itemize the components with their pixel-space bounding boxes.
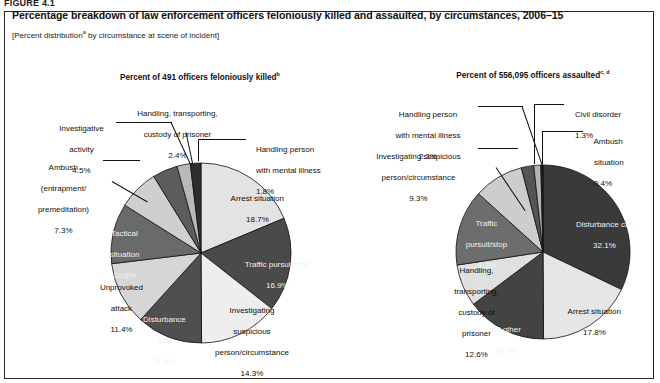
left-label-investigative-activity-l1: Investigative: [59, 124, 103, 133]
right-label-civil-disorder-name: Civil disorder: [575, 110, 621, 119]
right-label-mental-illness-l1: Handling person: [399, 110, 457, 119]
left-label-ambush-pct: 7.3%: [54, 226, 72, 235]
right-label-investigating-suspicious-l2: person/circumstance: [382, 173, 456, 182]
left-label-tactical-situation-pct: 10.8%: [113, 271, 136, 280]
left-label-handling-prisoner-l1: Handling, transporting,: [137, 109, 218, 118]
right-label-arrest-situation-pct: 17.8%: [583, 328, 606, 337]
right-label-handling-prisoner-pct: 12.6%: [465, 350, 488, 359]
right-label-ambush-situation: Ambush situation 0.4%: [585, 126, 655, 200]
left-label-disturbance-call-l2: call: [158, 336, 170, 345]
left-label-tactical-situation-l2: situation: [110, 250, 140, 259]
left-label-tactical-situation-l1: Tactical: [111, 229, 138, 238]
left-label-investigating-suspicious-pct: 14.3%: [241, 369, 264, 378]
right-label-traffic-pursuit-l1: Traffic: [475, 219, 497, 228]
left-leader-mental-illness: [198, 139, 246, 140]
right-label-traffic-pursuit-pct: 9.3%: [477, 261, 495, 270]
left-chart-title-text: Percent of 491 officers feloniously kill…: [120, 73, 277, 82]
right-leader-civil-disorder-drop: [534, 104, 535, 164]
right-label-traffic-pursuit: Traffic pursuit/stop 9.3%: [447, 208, 517, 282]
left-chart-title-footnote: b: [277, 71, 280, 77]
right-label-ambush-situation-l2: situation: [594, 158, 624, 167]
right-label-handling-prisoner-l3: custody of: [458, 308, 494, 317]
left-label-arrest-situation-pct: 18.7%: [246, 215, 269, 224]
right-chart-title-text: Percent of 556,095 officers assaulted: [456, 71, 600, 80]
left-label-investigative-activity-l2: activity: [69, 145, 93, 154]
right-leader-investigating-suspicious: [478, 148, 518, 149]
left-label-traffic-pursuit-name: Traffic pursuit/stop: [245, 260, 310, 269]
left-label-investigating-suspicious-l1: Investigating: [229, 306, 274, 315]
left-label-investigative-activity-pct: 4.5%: [72, 166, 90, 175]
right-label-handling-prisoner-l2: transporting,: [454, 287, 498, 296]
right-leader-ambush-situation: [542, 131, 583, 132]
left-label-mental-illness-l2: with mental illness: [256, 166, 321, 175]
right-label-arrest-situation-name: Arrest situation: [568, 307, 621, 316]
right-label-investigating-suspicious-pct: 9.3%: [409, 194, 427, 203]
left-label-mental-illness-l1: Handling person: [256, 145, 314, 154]
right-label-disturbance-call: Disturbance call 32.1%: [556, 209, 644, 262]
right-leader-mental-illness: [478, 106, 523, 107]
right-label-mental-illness-l2: with mental illness: [395, 131, 460, 140]
left-leader-mental-illness-drop: [198, 139, 199, 161]
left-label-ambush-l3: premeditation): [38, 205, 89, 214]
left-label-mental-illness-pct: 1.8%: [256, 187, 274, 196]
left-label-traffic-pursuit-pct: 16.9%: [266, 281, 289, 290]
left-label-unprovoked-attack-l2: attack: [111, 304, 132, 313]
right-label-arrest-situation: Arrest situation 17.8%: [545, 296, 635, 349]
subtitle-pre: [Percent distribution: [12, 31, 83, 40]
left-label-handling-prisoner-pct: 2.4%: [168, 151, 186, 160]
right-label-handling-prisoner-l4: prisoner: [462, 329, 491, 338]
left-label-investigative-activity: Investigative activity 4.5%: [38, 113, 116, 187]
figure-number-label: FIGURE 4.1: [4, 0, 55, 8]
right-leader-ambush-situation-drop: [542, 131, 543, 164]
left-label-investigating-suspicious-l3: person/circumstance: [215, 348, 289, 357]
right-label-mental-illness: Handling person with mental illness 2.3%: [371, 99, 476, 173]
right-label-disturbance-call-name: Disturbance call: [576, 220, 633, 229]
figure-subtitle: [Percent distributiona by circumstance a…: [12, 29, 219, 40]
left-label-mental-illness: Handling person with mental illness 1.8%: [247, 134, 357, 208]
right-leader-civil-disorder: [534, 104, 564, 105]
left-label-traffic-pursuit: Traffic pursuit/stop 16.9%: [225, 249, 321, 302]
right-label-traffic-pursuit-l2: pursuit/stop: [466, 240, 507, 249]
right-label-ambush-situation-l1: Ambush: [593, 137, 622, 146]
left-label-investigating-suspicious-l2: suspicious: [233, 327, 270, 336]
left-label-investigating-suspicious: Investigating suspicious person/circumst…: [195, 295, 300, 383]
right-chart-title-footnote: c, d: [600, 69, 609, 75]
figure-root: FIGURE 4.1 Percentage breakdown of law e…: [0, 0, 660, 383]
right-chart-title: Percent of 556,095 officers assaultedc, …: [418, 69, 648, 80]
page-title: Percentage breakdown of law enforcement …: [12, 9, 563, 21]
right-label-disturbance-call-pct: 32.1%: [593, 241, 616, 250]
left-chart-title: Percent of 491 officers feloniously kill…: [90, 71, 310, 82]
left-label-unprovoked-attack-pct: 11.4%: [110, 325, 132, 334]
right-label-mental-illness-pct: 2.3%: [419, 152, 437, 161]
left-label-disturbance-call-pct: 11.8%: [153, 357, 175, 366]
right-label-ambush-situation-pct: 0.4%: [594, 179, 612, 188]
left-label-handling-prisoner-l2: custody of prisoner: [144, 130, 212, 139]
left-label-handling-prisoner: Handling, transporting, custody of priso…: [118, 98, 228, 172]
subtitle-post: by circumstance at scene of incident]: [86, 31, 219, 40]
